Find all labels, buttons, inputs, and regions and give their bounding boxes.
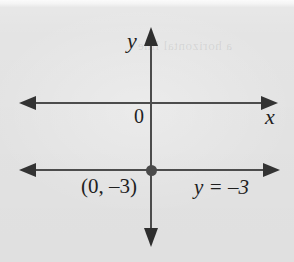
equation-label: y = –3: [194, 177, 249, 198]
bleed-through-ghost-text: a horizontal line: [52, 38, 232, 68]
point-coordinate-label: (0, –3): [81, 176, 137, 197]
y-axis-up-arrowhead: [144, 27, 158, 46]
x-axis-line: [34, 102, 264, 104]
origin-label: 0: [134, 106, 144, 126]
page-top-edge: [0, 0, 294, 7]
x-axis-left-arrowhead: [19, 96, 36, 110]
y-axis-down-arrowhead: [144, 228, 158, 247]
graph-figure: a horizontal line y x 0 (0, –3) y = –3: [0, 0, 294, 262]
y-axis-line: [150, 44, 152, 236]
graph-line-left-arrowhead: [19, 163, 36, 177]
x-axis-label: x: [265, 106, 275, 128]
y-axis-label: y: [127, 30, 137, 52]
y-intercept-point-marker: [146, 165, 157, 176]
graph-line-right-arrowhead: [263, 163, 280, 177]
